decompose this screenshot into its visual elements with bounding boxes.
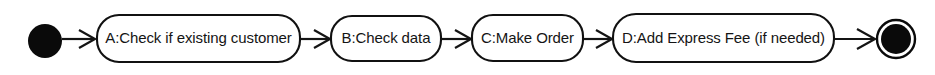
edge-c-to-d[interactable] [583,30,612,48]
edge-b-to-c[interactable] [441,30,471,48]
activity-diagram-canvas: A:Check if existing customer B:Check dat… [0,0,935,75]
edge-start-to-a[interactable] [62,30,95,48]
action-node-b-label: B:Check data [342,29,432,46]
action-node-d-label: D:Add Express Fee (if needed) [622,29,825,46]
edge-d-to-end[interactable] [834,29,875,49]
activity-diagram: A:Check if existing customer B:Check dat… [0,0,935,75]
action-node-c-label: C:Make Order [481,29,574,46]
action-node-d[interactable]: D:Add Express Fee (if needed) [613,14,834,62]
action-node-a-label: A:Check if existing customer [105,29,292,46]
action-node-a[interactable]: A:Check if existing customer [97,15,300,62]
final-node-icon [881,24,911,54]
initial-node[interactable] [28,24,62,58]
action-node-b[interactable]: B:Check data [331,16,441,61]
initial-node-icon [28,24,62,58]
edge-a-to-b[interactable] [300,30,330,48]
final-node[interactable] [877,20,915,58]
action-node-c[interactable]: C:Make Order [472,15,583,61]
